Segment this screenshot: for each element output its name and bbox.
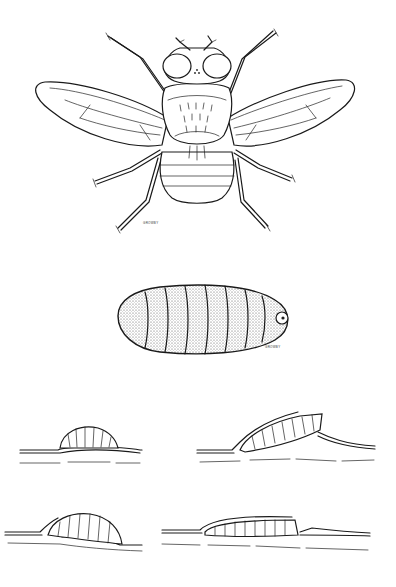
stage-3-larva-burrowing bbox=[5, 514, 142, 551]
thorax bbox=[162, 84, 231, 161]
left-wing bbox=[36, 82, 168, 146]
larva-puparium bbox=[118, 285, 288, 354]
larva-signature: GROWBY bbox=[265, 345, 280, 349]
adult-fly bbox=[36, 29, 355, 233]
stage-1-larva-on-leaf bbox=[20, 427, 142, 463]
head bbox=[163, 36, 231, 84]
illustration-canvas bbox=[0, 0, 396, 587]
right-wing bbox=[228, 80, 355, 146]
stage-2-larva-under-epidermis bbox=[197, 412, 375, 462]
stage-4-larva-in-mine bbox=[162, 517, 370, 550]
adult-signature: GROWBY bbox=[143, 221, 158, 225]
